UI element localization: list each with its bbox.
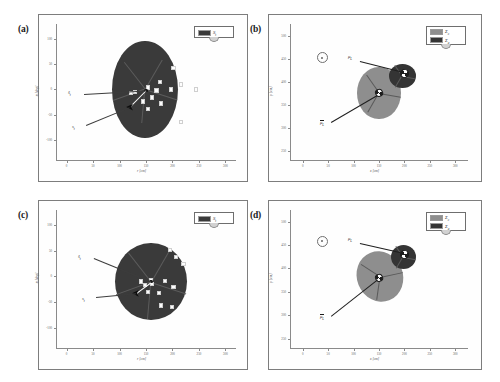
panel-c-xtick: [120, 348, 121, 351]
panel-c-xticklabel: 200: [163, 352, 181, 356]
panel-a-yticklabel: -100: [37, 138, 52, 142]
panel-d-y-axis-line: [290, 210, 291, 348]
panel-c-ytick: [54, 302, 57, 303]
panel-a-xtick: [199, 160, 200, 163]
panel-d-xticklabel: 200: [395, 352, 413, 356]
panel-a-sample-point: [179, 82, 183, 86]
panel-c-xtick: [67, 348, 68, 351]
panel-a-xtick: [172, 160, 173, 163]
panel-d-ytick: [288, 268, 291, 269]
panel-b-ytick: [288, 151, 291, 152]
panel-d-ytick: [288, 245, 291, 246]
panel-b-plot: 050100150200250300250300350400450500x [c…: [290, 24, 468, 160]
panel-c-annotation-true: st: [82, 296, 85, 303]
panel-a-sample-point: [154, 88, 158, 92]
panel-d-yticklabel: 250: [271, 337, 286, 341]
panel-c-sample-point: [163, 279, 167, 283]
panel-c-xticklabel: 0: [58, 352, 76, 356]
panel-a-yticklabel: 0: [37, 87, 52, 91]
panel-a-sample-point: [171, 66, 175, 70]
panel-c-ytick: [54, 328, 57, 329]
panel-a-ytick: [54, 39, 57, 40]
panel-b-xlabel: x [cm]: [370, 169, 379, 173]
figure-canvas: (a)050100150200250300-100-50050100r [cm]…: [0, 0, 500, 382]
panel-d-ytick: [288, 315, 291, 316]
panel-c-xticklabel: 250: [190, 352, 208, 356]
panel-a-xticklabel: 300: [216, 164, 234, 168]
panel-b-ytick: [288, 105, 291, 106]
panel-a-xtick: [225, 160, 226, 163]
panel-b-annotation-mu-L-bar: μL: [320, 120, 324, 127]
panel-b-xticklabel: 250: [421, 164, 439, 168]
panel-a-xticklabel: 150: [137, 164, 155, 168]
panel-a-xticklabel: 200: [163, 164, 181, 168]
panel-c-legend-swatch-1: [198, 216, 211, 223]
panel-c-ytick: [54, 251, 57, 252]
panel-a-sample-point: [169, 87, 173, 91]
panel-a-sample-point: [194, 87, 198, 91]
panel-d-ytick: [288, 339, 291, 340]
panel-a-sample-point: [179, 120, 183, 124]
panel-d-yticklabel: 300: [271, 313, 286, 317]
panel-b-ytick: [288, 59, 291, 60]
panel-d-legend-swatch-1: [430, 215, 443, 222]
panel-b-yticklabel: 400: [271, 80, 286, 84]
panel-c-xtick: [199, 348, 200, 351]
panel-c-yticklabel: 0: [37, 274, 52, 278]
panel-b-xticklabel: 300: [446, 164, 464, 168]
panel-c-xlabel: r [cm]: [137, 357, 146, 361]
panel-d-label: (d): [250, 210, 261, 220]
panel-a-sample-point: [141, 99, 145, 103]
panel-d-yticklabel: 450: [271, 243, 286, 247]
panel-a-ytick: [54, 89, 57, 90]
panel-a-ylabel: α [deg]: [35, 76, 39, 106]
panel-b-yticklabel: 450: [271, 57, 286, 61]
panel-d-xtick: [379, 348, 380, 351]
panel-c-xtick: [225, 348, 226, 351]
panel-c-label: (c): [18, 210, 28, 220]
panel-b-ytick: [288, 36, 291, 37]
panel-d-xtick: [430, 348, 431, 351]
panel-b-xticklabel: 200: [395, 164, 413, 168]
panel-d-yticklabel: 350: [271, 290, 286, 294]
panel-c-xticklabel: 150: [137, 352, 155, 356]
panel-c-sample-point: [171, 285, 175, 289]
panel-b-xtick: [430, 160, 431, 163]
panel-b-y-axis-line: [290, 24, 291, 160]
panel-b-legend: ΣcΣa: [426, 26, 466, 45]
panel-d-ytick: [288, 292, 291, 293]
panel-b-yticklabel: 250: [271, 149, 286, 153]
panel-a-yticklabel: 100: [37, 37, 52, 41]
panel-b-yticklabel: 300: [271, 126, 286, 130]
panel-d-ytick: [288, 222, 291, 223]
panel-d-xtick: [328, 348, 329, 351]
panel-d-ellipse-spoke: [380, 272, 402, 277]
panel-c-sample-point: [174, 255, 178, 259]
panel-c-ylabel: α [deg]: [35, 263, 39, 293]
panel-d-legend: ΣcΣa: [426, 212, 466, 231]
panel-b-xtick: [328, 160, 329, 163]
panel-d-xtick: [455, 348, 456, 351]
panel-b-legend-label-1: Σc: [445, 29, 449, 36]
panel-d-xticklabel: 0: [294, 352, 312, 356]
panel-b-yticklabel: 500: [271, 34, 286, 38]
panel-d-xticklabel: 150: [370, 352, 388, 356]
panel-a-xticklabel: 250: [190, 164, 208, 168]
panel-b-annotation-mu-L: μL: [348, 54, 352, 61]
panel-a-ytick: [54, 64, 57, 65]
panel-a-xticklabel: 50: [84, 164, 102, 168]
panel-d-annotation-mu-L-bar: μL: [320, 314, 324, 321]
panel-c-legend-footer-glyph: [209, 223, 219, 228]
panel-b-xtick: [404, 160, 405, 163]
panel-c-xtick: [93, 348, 94, 351]
panel-b-xticklabel: 150: [370, 164, 388, 168]
panel-a-legend-footer-glyph: [209, 37, 219, 42]
panel-a-label: (a): [18, 24, 28, 34]
panel-b-xtick: [379, 160, 380, 163]
panel-c-ytick: [54, 225, 57, 226]
panel-c-yticklabel: 50: [37, 249, 52, 253]
panel-a-annotation-estimate: ŝt: [68, 90, 71, 97]
panel-c-yticklabel: 100: [37, 223, 52, 227]
panel-d-xlabel: x [cm]: [370, 357, 379, 361]
panel-a-y-axis-line: [56, 24, 57, 160]
